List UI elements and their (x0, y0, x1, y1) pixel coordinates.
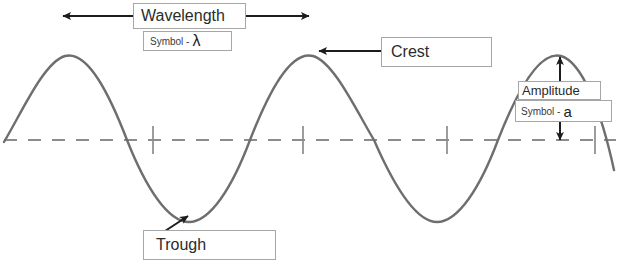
wavelength-label-box: Wavelength (133, 3, 246, 29)
wavelength-symbol-prefix: Symbol - (150, 36, 189, 47)
trough-label-text: Trough (156, 236, 206, 254)
amplitude-label-box: Amplitude (518, 81, 601, 100)
crest-label-box: Crest (381, 37, 492, 67)
wavelength-label-text: Wavelength (141, 7, 225, 25)
wave-diagram: Wavelength Symbol - λ Crest Trough Ampli… (0, 0, 618, 263)
amplitude-label-text: Amplitude (522, 83, 580, 98)
wave-diagram-canvas (0, 0, 618, 263)
lambda-symbol: λ (192, 32, 200, 50)
amplitude-symbol-prefix: Symbol - (521, 106, 560, 117)
amplitude-symbol: a (563, 103, 571, 120)
crest-label-text: Crest (391, 43, 429, 61)
trough-label-box: Trough (143, 230, 276, 260)
wavelength-symbol-box: Symbol - λ (143, 31, 232, 51)
amplitude-symbol-box: Symbol - a (515, 100, 612, 122)
